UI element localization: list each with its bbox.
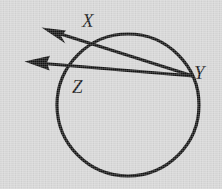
point-label-x: X xyxy=(82,11,94,30)
circle-label-z: Z xyxy=(72,77,83,96)
point-label-y: Y xyxy=(194,63,205,82)
ray-yz-arrowhead xyxy=(25,56,51,71)
ray-yz xyxy=(25,56,194,76)
geometry-figure: X Y Z xyxy=(0,0,222,189)
figure-canvas xyxy=(0,0,222,189)
